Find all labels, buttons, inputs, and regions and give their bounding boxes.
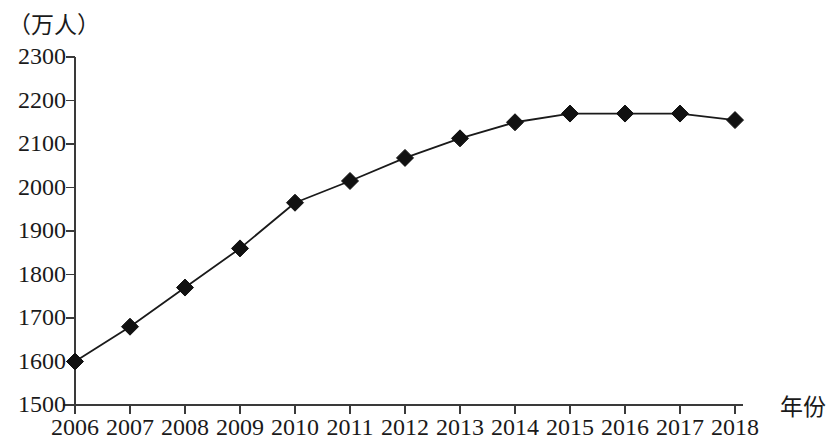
y-axis-tick-label-text: 1900 <box>18 218 66 242</box>
data-point-marker <box>122 318 139 335</box>
y-axis-tick-label-text: 1800 <box>18 262 66 286</box>
x-axis-tick-label: 2009 <box>209 414 271 435</box>
x-axis-tick-label: 2011 <box>319 414 381 435</box>
x-axis-tick-label: 2018 <box>704 414 766 435</box>
y-axis-tick-label: 1700 <box>0 305 66 329</box>
x-axis-tick-label: 2016 <box>594 414 656 435</box>
line-chart: （万人） 年份 23002200210020001900180017001600… <box>0 0 834 435</box>
y-axis-tick-label-text: 2300 <box>18 44 66 68</box>
data-point-marker <box>617 105 634 122</box>
x-axis-tick-label: 2006 <box>44 414 106 435</box>
y-axis-tick-label-text: 1700 <box>18 305 66 329</box>
data-point-marker <box>562 105 579 122</box>
y-axis-tick-label: 1800 <box>0 262 66 286</box>
x-axis-tick-label: 2017 <box>649 414 711 435</box>
axes <box>63 57 743 414</box>
data-point-marker <box>452 130 469 147</box>
x-axis-tick-label: 2013 <box>429 414 491 435</box>
x-axis-tick-label: 2014 <box>484 414 546 435</box>
data-point-marker <box>507 114 524 131</box>
data-point-marker <box>672 105 689 122</box>
y-axis-tick-label-text: 2000 <box>18 175 66 199</box>
y-axis-tick-label: 2100 <box>0 131 66 155</box>
y-axis-tick-label: 1600 <box>0 349 66 373</box>
data-series <box>67 105 744 370</box>
data-point-marker <box>342 172 359 189</box>
x-axis-tick-label: 2010 <box>264 414 326 435</box>
data-point-marker <box>727 112 744 129</box>
y-axis-tick-label: 2000 <box>0 175 66 199</box>
y-axis-tick-label-text: 1500 <box>18 392 66 416</box>
x-axis-tick-label: 2008 <box>154 414 216 435</box>
data-point-marker <box>177 279 194 296</box>
y-axis-tick-label: 2200 <box>0 88 66 112</box>
y-axis-tick-label-text: 2200 <box>18 88 66 112</box>
y-axis-tick-label-text: 2100 <box>18 131 66 155</box>
y-axis-tick-label: 1500 <box>0 392 66 416</box>
x-axis-tick-label: 2012 <box>374 414 436 435</box>
y-axis-tick-label: 1900 <box>0 218 66 242</box>
y-axis-tick-label-text: 1600 <box>18 349 66 373</box>
data-point-marker <box>67 353 84 370</box>
y-axis-tick-label: 2300 <box>0 44 66 68</box>
plot-area <box>0 0 834 435</box>
data-point-marker <box>397 149 414 166</box>
x-axis-tick-label: 2007 <box>99 414 161 435</box>
x-axis-tick-label: 2015 <box>539 414 601 435</box>
